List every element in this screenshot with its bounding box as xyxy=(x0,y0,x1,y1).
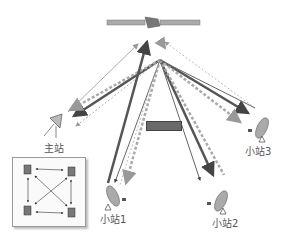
vsat1-label: 小站1 xyxy=(100,211,126,226)
vsat1-icon xyxy=(104,184,126,210)
vsat3-icon xyxy=(248,116,271,142)
satellite-icon xyxy=(107,17,200,28)
station-icon xyxy=(68,167,75,176)
vsat2-icon xyxy=(207,189,230,214)
center-tag xyxy=(146,121,182,131)
master-station-icon xyxy=(44,114,62,138)
station-icon xyxy=(68,208,75,217)
station-icon xyxy=(24,206,31,215)
station-icon xyxy=(24,165,31,174)
mesh-diagram xyxy=(13,158,85,226)
master-station-label: 主站 xyxy=(44,140,64,155)
mesh-inset xyxy=(12,157,86,227)
vsat3-label: 小站3 xyxy=(245,143,271,158)
vsat2-label: 小站2 xyxy=(212,215,238,230)
